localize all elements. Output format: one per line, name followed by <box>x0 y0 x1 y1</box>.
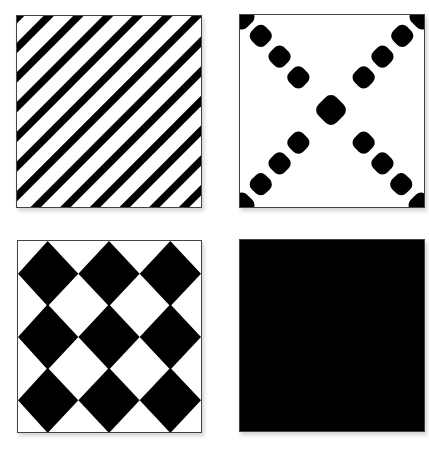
diagonal-stripes-panel: Diagonal stripes <box>16 15 202 208</box>
diamonds-graphic <box>18 241 201 432</box>
dotted-x-panel: Dotted X <box>239 14 425 208</box>
stripes-graphic <box>17 16 201 207</box>
dots-graphic <box>240 15 424 207</box>
diamond-checkerboard-panel: Diamond checkerboard <box>17 240 202 433</box>
solid-black-panel: Solid black <box>239 239 425 432</box>
